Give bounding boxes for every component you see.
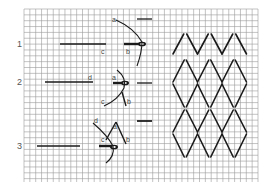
step-number-2: 2 [17, 77, 22, 87]
worked-diamond-pattern [173, 34, 247, 157]
stitch-line [122, 92, 126, 106]
label-a: a [112, 16, 116, 23]
label-d: d [88, 74, 92, 81]
label-b: b [127, 98, 131, 105]
step-number-1: 1 [17, 39, 22, 49]
graph-grid [24, 9, 258, 182]
label-c: c [101, 136, 105, 143]
stitch-diagram: a b c d a b c [0, 0, 276, 191]
step-2-illustration: d a b c [45, 70, 152, 121]
label-c: c [101, 98, 105, 105]
label-a: a [113, 123, 117, 130]
step-number-3: 3 [17, 141, 22, 151]
label-b: b [126, 136, 130, 143]
label-b: b [126, 48, 130, 55]
step-3-illustration: d a b c [37, 117, 152, 163]
label-c: c [101, 48, 105, 55]
thread-curve [93, 123, 113, 163]
label-d: d [94, 117, 98, 124]
diagram-canvas: a b c d a b c [0, 0, 276, 191]
label-a: a [112, 74, 116, 81]
